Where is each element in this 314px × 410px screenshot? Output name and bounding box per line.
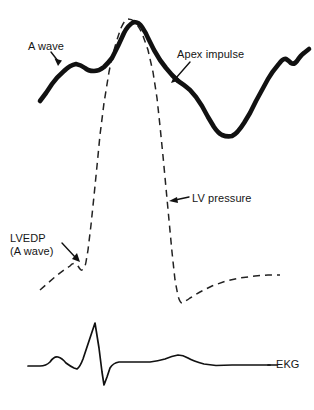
tracing-figure — [0, 0, 314, 410]
annotation-lvedp-line2: (A wave) — [10, 245, 54, 258]
lv-pressure-leader — [169, 197, 189, 203]
annotation-apex-impulse: Apex impulse — [177, 48, 244, 61]
annotation-ekg: EKG — [276, 358, 300, 371]
annotation-lvedp: LVEDP (A wave) — [10, 232, 54, 258]
annotation-a-wave: A wave — [28, 40, 64, 53]
figure-root: A wave Apex impulse LV pressure LVEDP (A… — [0, 0, 314, 410]
annotation-lvedp-line1: LVEDP — [10, 232, 46, 244]
lvedp-leader — [62, 243, 80, 262]
ekg-trace — [28, 323, 270, 385]
a-wave-leader — [51, 52, 62, 66]
annotation-lv-pressure: LV pressure — [192, 192, 252, 205]
